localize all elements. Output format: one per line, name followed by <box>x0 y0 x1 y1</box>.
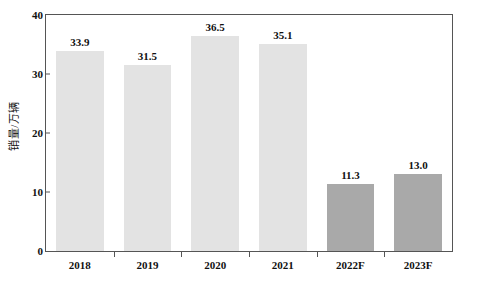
y-tick-label: 20 <box>19 127 43 139</box>
bar-slot: 35.1 <box>259 15 306 251</box>
x-tick-label: 2020 <box>181 259 249 271</box>
bar-value-label: 35.1 <box>259 29 306 41</box>
y-tick-label: 30 <box>19 68 43 80</box>
x-tick-label: 2023F <box>384 259 452 271</box>
bar-chart: 销量/万辆 010203040 33.931.536.535.111.313.0… <box>0 0 479 297</box>
bar-slot: 33.9 <box>56 15 103 251</box>
bars-container: 33.931.536.535.111.313.0 <box>46 15 452 251</box>
x-tick-mark <box>384 252 385 257</box>
x-tick-label: 2021 <box>249 259 317 271</box>
y-tick-label: 0 <box>19 245 43 257</box>
x-tick-mark <box>249 252 250 257</box>
x-tick-label: 2018 <box>46 259 114 271</box>
x-tick-label: 2022F <box>317 259 385 271</box>
y-axis-title-label: 销量/万辆 <box>5 101 21 151</box>
bar-slot: 11.3 <box>327 15 374 251</box>
bar[interactable] <box>259 44 306 251</box>
y-tick-label: 10 <box>19 186 43 198</box>
bar-slot: 31.5 <box>124 15 171 251</box>
bar[interactable] <box>394 174 441 251</box>
y-tick-label: 40 <box>19 9 43 21</box>
bar-value-label: 11.3 <box>327 169 374 181</box>
bar[interactable] <box>327 184 374 251</box>
bar[interactable] <box>56 51 103 251</box>
x-tick-mark <box>181 252 182 257</box>
bar-value-label: 36.5 <box>191 21 238 33</box>
bar-slot: 36.5 <box>191 15 238 251</box>
y-axis-title: 销量/万辆 <box>2 0 24 252</box>
x-tick-label: 2019 <box>114 259 182 271</box>
bar-value-label: 13.0 <box>394 159 441 171</box>
bar-value-label: 33.9 <box>56 36 103 48</box>
y-axis-tick-labels: 010203040 <box>12 0 43 297</box>
x-tick-mark <box>114 252 115 257</box>
bar[interactable] <box>191 36 238 251</box>
bar-value-label: 31.5 <box>124 50 171 62</box>
bar-slot: 13.0 <box>394 15 441 251</box>
x-tick-mark <box>317 252 318 257</box>
bar[interactable] <box>124 65 171 251</box>
x-axis-tick-labels: 20182019202020212022F2023F <box>46 259 452 279</box>
